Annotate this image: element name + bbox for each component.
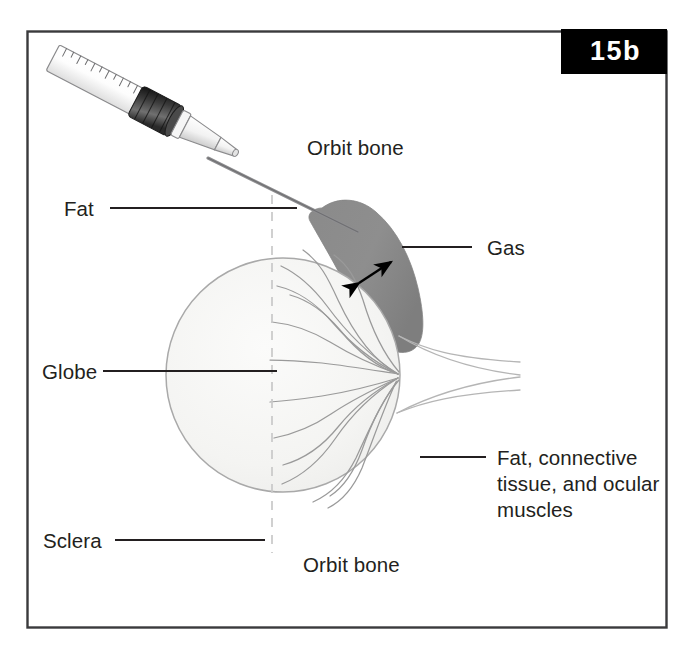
figure-root: Orbit bone Fat Gas Globe Fat, connective… — [0, 0, 695, 656]
figure-badge-number: 15b — [590, 36, 641, 67]
label-gas: Gas — [487, 235, 525, 261]
label-globe: Globe — [42, 359, 97, 385]
globe — [166, 258, 400, 492]
label-fat-connective-tissue-ocular-muscles: Fat, connective tissue, and ocular muscl… — [497, 445, 659, 522]
globe-sclera-outline — [166, 258, 400, 492]
label-sclera: Sclera — [43, 528, 102, 554]
label-fat: Fat — [64, 196, 94, 222]
label-orbit-bone-top: Orbit bone — [307, 135, 404, 161]
label-orbit-bone-bottom: Orbit bone — [303, 552, 400, 578]
